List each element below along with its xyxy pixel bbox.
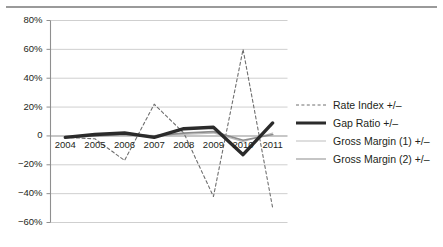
y-axis-label: 20% <box>3 101 43 112</box>
dashed-line-swatch <box>296 100 326 110</box>
legend-item-gross-margin-2[interactable]: Gross Margin (2) +/– <box>296 150 441 168</box>
y-axis-label: 60% <box>3 43 43 54</box>
legend-label: Gross Margin (2) +/– <box>333 153 430 165</box>
legend-label: Gross Margin (1) +/– <box>333 135 430 147</box>
legend-item-gross-margin-1[interactable]: Gross Margin (1) +/– <box>296 132 441 150</box>
legend-item-rate-index[interactable]: Rate Index +/– <box>296 96 441 114</box>
medium-line-swatch <box>296 154 326 164</box>
y-axis-label: −40% <box>3 187 43 198</box>
legend-item-gap-ratio[interactable]: Gap Ratio +/– <box>296 114 441 132</box>
chart-figure: 80%60%40%20%0−20%−40%−60%200420052006200… <box>0 0 443 247</box>
y-axis-label: 40% <box>3 72 43 83</box>
thin-line-swatch <box>296 136 326 146</box>
y-axis-label: −60% <box>3 216 43 227</box>
chart-legend: Rate Index +/– Gap Ratio +/– Gross Margi… <box>296 96 441 168</box>
series-line <box>65 49 272 208</box>
x-axis-label: 2011 <box>256 139 290 150</box>
legend-label: Gap Ratio +/– <box>333 117 398 129</box>
thick-line-swatch <box>296 118 326 128</box>
y-axis-label: 0 <box>3 129 43 140</box>
legend-label: Rate Index +/– <box>333 99 402 111</box>
y-axis-label: −20% <box>3 158 43 169</box>
y-axis-label: 80% <box>3 14 43 25</box>
